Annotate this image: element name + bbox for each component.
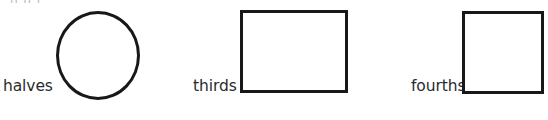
shape-label-thirds: thirds (193, 79, 237, 95)
rectangle-shape (240, 10, 348, 93)
circle-shape (56, 11, 140, 100)
square-shape (462, 11, 544, 94)
worksheet-figure: || || | halves thirds fourths (0, 0, 548, 120)
shape-label-halves: halves (3, 79, 53, 95)
clipped-text-remnant: || || | (10, 0, 130, 3)
shape-label-fourths: fourths (411, 79, 465, 95)
